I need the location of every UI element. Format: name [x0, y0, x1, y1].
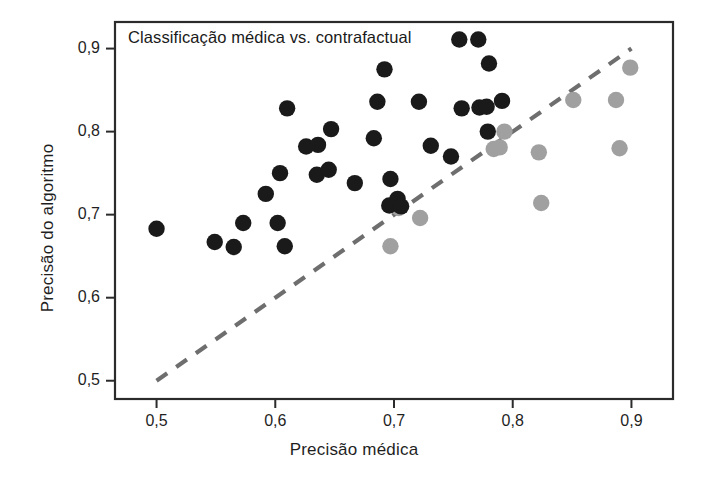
- data-point: [376, 61, 392, 77]
- data-point: [533, 195, 549, 211]
- x-tick-label: 0,6: [252, 412, 298, 430]
- x-tick-label: 0,9: [608, 412, 654, 430]
- data-point: [269, 215, 285, 231]
- data-point: [531, 144, 547, 160]
- data-point: [622, 59, 638, 75]
- y-tick-label: 0,5: [54, 371, 100, 389]
- data-point: [369, 94, 385, 110]
- x-tick-label: 0,7: [371, 412, 417, 430]
- data-point: [393, 198, 409, 214]
- data-point: [412, 210, 428, 226]
- data-point: [480, 123, 496, 139]
- data-point: [478, 99, 494, 115]
- data-point: [491, 139, 507, 155]
- data-point: [423, 138, 439, 154]
- data-point: [148, 221, 164, 237]
- data-point: [496, 123, 512, 139]
- data-point: [565, 92, 581, 108]
- data-point: [366, 130, 382, 146]
- data-point: [494, 93, 510, 109]
- data-point: [321, 162, 337, 178]
- data-point: [443, 148, 459, 164]
- data-point: [611, 140, 627, 156]
- y-tick-label: 0,8: [54, 122, 100, 140]
- chart-canvas: [0, 0, 708, 483]
- data-point: [411, 94, 427, 110]
- data-point: [453, 100, 469, 116]
- y-tick-label: 0,7: [54, 205, 100, 223]
- data-point: [279, 100, 295, 116]
- data-point: [608, 92, 624, 108]
- data-point: [470, 31, 486, 47]
- x-tick-label: 0,5: [134, 412, 180, 430]
- y-tick-label: 0,6: [54, 288, 100, 306]
- data-point: [382, 171, 398, 187]
- data-point: [258, 186, 274, 202]
- x-tick-label: 0,8: [490, 412, 536, 430]
- y-tick-label: 0,9: [54, 39, 100, 57]
- data-point: [235, 215, 251, 231]
- data-point: [382, 238, 398, 254]
- light-data-points: [382, 59, 638, 254]
- data-point: [277, 238, 293, 254]
- data-point: [323, 121, 339, 137]
- data-point: [451, 31, 467, 47]
- data-point: [310, 137, 326, 153]
- dark-data-points: [148, 31, 510, 255]
- data-point: [272, 165, 288, 181]
- data-point: [226, 239, 242, 255]
- data-point: [347, 175, 363, 191]
- scatter-plot-figure: Classificação médica vs. contrafactual P…: [0, 0, 708, 483]
- data-point: [207, 234, 223, 250]
- data-point: [481, 55, 497, 71]
